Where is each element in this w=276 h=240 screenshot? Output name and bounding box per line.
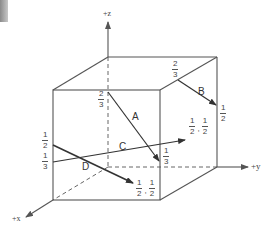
x-axis — [26, 200, 53, 217]
vector-b — [178, 80, 216, 105]
vector-b-start-fraction: 2 3 — [172, 60, 178, 79]
vector-d-end-coordinates: 1 2 , 1 2 — [136, 179, 155, 198]
z-axis-label: +z — [103, 10, 111, 18]
vector-d-label: D — [82, 162, 89, 172]
vector-b-label: B — [198, 87, 205, 97]
vector-a-start-fraction: 2 3 — [98, 90, 104, 109]
vector-a — [108, 92, 159, 161]
vector-c-start-fraction: 1 3 — [42, 152, 48, 171]
vector-b-end-fraction: 1 2 — [220, 104, 226, 123]
x-axis-label: +x — [12, 215, 21, 223]
unit-cube-diagram: +z +y +x A B C D 2 3 1 3 2 3 1 2 1 3 1 2 — [0, 0, 276, 240]
y-axis-label: +y — [251, 162, 261, 171]
vector-c-label: C — [119, 142, 126, 152]
vector-d-start-fraction: 1 2 — [42, 131, 48, 150]
vector-a-label: A — [132, 112, 139, 122]
vector-c-end-coordinates: 1 2 , 1 2 — [189, 117, 208, 136]
vector-a-end-fraction: 1 3 — [163, 147, 169, 166]
